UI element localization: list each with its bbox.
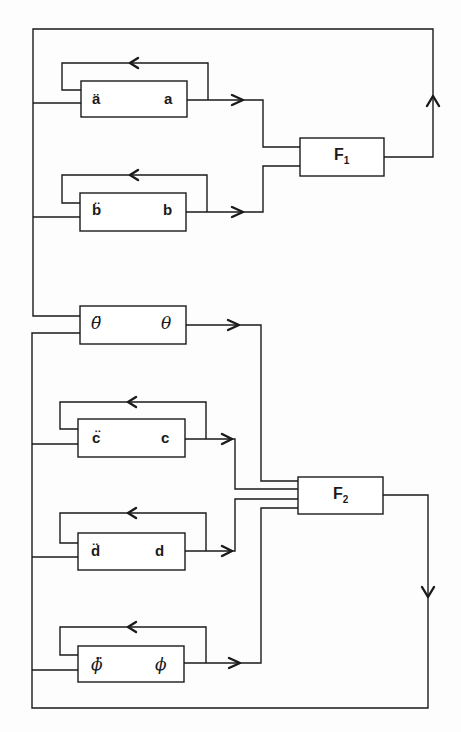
integrator-phi-output-label: ϕ bbox=[155, 656, 167, 673]
integrator-c-input-label: c̈ bbox=[92, 430, 100, 445]
integrator-phi-input-label: ϕ̈ bbox=[91, 656, 103, 673]
integrator-c-output-label: c bbox=[161, 430, 169, 445]
f1-label: F1 bbox=[334, 146, 349, 166]
integrator-a-input-label: ä bbox=[92, 91, 100, 106]
f2-label-main: F bbox=[333, 485, 343, 502]
integrator-d-wiring bbox=[60, 499, 298, 570]
integrator-a-output-label: a bbox=[164, 91, 172, 106]
integrator-b-wiring bbox=[62, 166, 300, 231]
f1-label-subscript: 1 bbox=[344, 155, 350, 166]
integrator-b-output-label: b bbox=[163, 202, 172, 217]
f2-label-subscript: 2 bbox=[343, 494, 349, 505]
diagram-wiring bbox=[0, 0, 461, 732]
block-diagram: ä a b̈ b θ̈ θ c̈ c d̈ d ϕ̈ ϕ F1 F2 bbox=[0, 0, 461, 732]
f2-label: F2 bbox=[333, 485, 348, 505]
integrator-d-input-label: d̈ bbox=[91, 543, 100, 558]
integrator-theta-output-label: θ bbox=[161, 315, 171, 332]
integrator-d-output-label: d bbox=[155, 543, 164, 558]
integrator-theta-input-label: θ̈ bbox=[91, 315, 101, 332]
integrator-b-input-label: b̈ bbox=[92, 202, 101, 217]
f1-label-main: F bbox=[334, 146, 344, 163]
